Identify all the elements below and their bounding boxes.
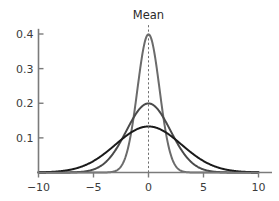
y-tick-label-2: 0.3 [16, 63, 34, 76]
x-tick-label-1: −5 [85, 181, 101, 194]
chart-canvas: 0.10.20.30.4 −10−50510 Mean [0, 0, 279, 201]
curves-layer [39, 34, 259, 172]
mean-annotation-label: Mean [133, 8, 164, 22]
y-tick-label-3: 0.4 [16, 28, 34, 41]
y-axis-tick-labels: 0.10.20.30.4 [16, 28, 34, 145]
x-tick-label-0: −10 [27, 181, 50, 194]
x-tick-label-4: 10 [252, 181, 266, 194]
y-tick-label-0: 0.1 [16, 132, 34, 145]
y-tick-label-1: 0.2 [16, 97, 34, 110]
x-tick-label-2: 0 [145, 181, 152, 194]
x-tick-label-3: 5 [200, 181, 207, 194]
normal-distribution-chart: 0.10.20.30.4 −10−50510 Mean [0, 0, 279, 201]
x-axis-tick-labels: −10−50510 [27, 181, 266, 194]
